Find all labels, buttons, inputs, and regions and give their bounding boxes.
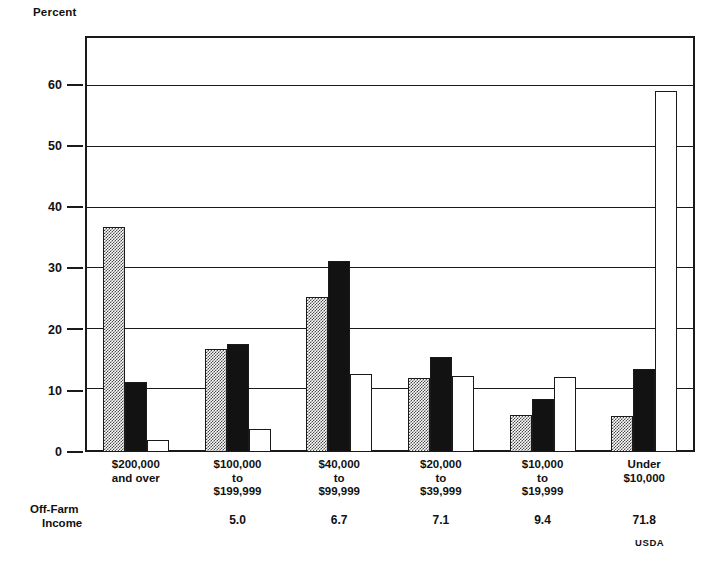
bar-hatched-0: [103, 227, 125, 452]
y-axis-tick-10: 10: [42, 384, 83, 398]
source-label: USDA: [635, 537, 664, 548]
bar-open-1: [249, 429, 271, 452]
x-axis-label-3-line2: to: [390, 472, 492, 486]
y-axis-tick-label-0: 0: [42, 445, 62, 459]
x-axis-label-0: $200,000 and over: [85, 458, 187, 499]
y-axis-tick-mark: [67, 145, 83, 147]
y-axis-tick-20: 20: [42, 323, 83, 337]
bar-open-2: [350, 374, 372, 452]
y-axis-title: Percent: [33, 6, 77, 18]
bar-solid-2: [328, 261, 350, 452]
bar-hatched-5: [611, 416, 633, 452]
bar-group-1: [187, 36, 289, 452]
bar-hatched-4: [510, 415, 532, 452]
off-farm-income-values: 5.0 6.7 7.1 9.4 71.8: [85, 513, 695, 527]
off-farm-income-value-0: [85, 513, 187, 527]
bar-hatched-3: [408, 378, 430, 452]
y-axis-tick-label-20: 20: [42, 323, 62, 337]
y-axis-tick-30: 30: [42, 261, 83, 275]
y-axis-tick-mark: [67, 451, 83, 453]
bar-solid-3: [430, 357, 452, 452]
bar-groups: [85, 36, 695, 452]
x-axis-label-1: $100,000 to $199,999: [187, 458, 289, 499]
off-farm-income-label-line2: Income: [30, 516, 82, 530]
x-axis-label-3: $20,000 to $39,999: [390, 458, 492, 499]
bar-solid-5: [633, 369, 655, 452]
bar-hatched-2: [306, 297, 328, 452]
bar-open-0: [147, 440, 169, 452]
y-axis-tick-label-30: 30: [42, 261, 62, 275]
y-axis-tick-mark: [67, 267, 83, 269]
x-axis-label-4-line1: $10,000: [492, 458, 594, 472]
x-axis-label-0-line1: $200,000: [85, 458, 187, 472]
bar-group-0: [85, 36, 187, 452]
x-axis-label-1-line1: $100,000: [187, 458, 289, 472]
x-axis-label-2: $40,000 to $99,999: [288, 458, 390, 499]
bar-group-2: [288, 36, 390, 452]
off-farm-income-value-4: 9.4: [492, 513, 594, 527]
off-farm-income-value-2: 6.7: [288, 513, 390, 527]
y-axis-tick-mark: [67, 206, 83, 208]
bar-group-3: [390, 36, 492, 452]
bar-open-3: [452, 376, 474, 452]
bar-open-5: [655, 91, 677, 452]
x-axis-label-5-line1: Under: [593, 458, 695, 472]
y-axis-tick-50: 50: [42, 139, 83, 153]
y-axis-tick-label-40: 40: [42, 200, 62, 214]
y-axis-tick-mark: [67, 390, 83, 392]
y-axis-tick-40: 40: [42, 200, 83, 214]
bar-group-5: [593, 36, 695, 452]
off-farm-income-value-1: 5.0: [187, 513, 289, 527]
x-axis-label-0-line2: and over: [85, 472, 187, 486]
y-axis-tick-60: 60: [42, 78, 83, 92]
off-farm-income-value-5: 71.8: [593, 513, 695, 527]
y-axis-tick-0: 0: [42, 445, 83, 459]
x-axis-label-2-line2: to: [288, 472, 390, 486]
x-axis-label-4-line2: to: [492, 472, 594, 486]
x-axis-category-labels: $200,000 and over $100,000 to $199,999 $…: [85, 458, 695, 499]
y-axis-tick-mark: [67, 328, 83, 330]
x-axis-label-5: Under $10,000: [593, 458, 695, 499]
y-axis-tick-label-60: 60: [42, 78, 62, 92]
x-axis-label-1-line2: to: [187, 472, 289, 486]
y-axis-tick-label-10: 10: [42, 384, 62, 398]
off-farm-income-label: Off-Farm Income: [30, 502, 82, 530]
bar-solid-1: [227, 344, 249, 452]
bar-open-4: [554, 377, 576, 452]
bar-solid-4: [532, 399, 554, 452]
y-axis-tick-column: 60 50 40 30 20 10 0: [0, 36, 83, 452]
x-axis-label-2-line1: $40,000: [288, 458, 390, 472]
x-axis-label-3-line1: $20,000: [390, 458, 492, 472]
bar-group-4: [492, 36, 594, 452]
bar-solid-0: [125, 382, 147, 452]
bar-hatched-1: [205, 349, 227, 452]
x-axis-label-1-line3: $199,999: [187, 485, 289, 499]
x-axis-label-2-line3: $99,999: [288, 485, 390, 499]
x-axis-label-3-line3: $39,999: [390, 485, 492, 499]
y-axis-tick-label-50: 50: [42, 139, 62, 153]
x-axis-label-4: $10,000 to $19,999: [492, 458, 594, 499]
off-farm-income-label-line1: Off-Farm: [30, 503, 79, 515]
chart-root: Percent 60 50 40 30 20 10 0: [0, 0, 705, 565]
y-axis-tick-mark: [67, 84, 83, 86]
x-axis-label-4-line3: $19,999: [492, 485, 594, 499]
x-axis-label-5-line2: $10,000: [593, 472, 695, 486]
off-farm-income-value-3: 7.1: [390, 513, 492, 527]
